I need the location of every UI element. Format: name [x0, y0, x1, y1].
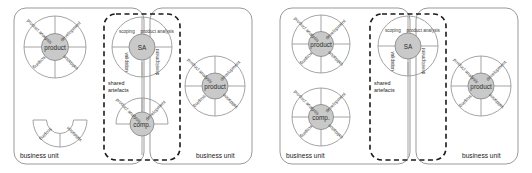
segment-label-scoping: scoping	[299, 51, 314, 66]
segment-label-validation: validation	[124, 52, 129, 72]
segment-label-scoping: scoping	[385, 28, 401, 33]
wheel-left-partial-bottom: scoping validation	[33, 120, 87, 147]
hub-label: comp.	[133, 121, 151, 129]
segment-label-validation: validation	[327, 50, 345, 68]
segment-label-development: development	[485, 59, 508, 82]
wheel-left-comp: comp. product analysis development	[115, 97, 168, 136]
shared-artefacts-label-line2: artefacts	[374, 87, 395, 93]
segment-label-scoping: scoping	[38, 127, 53, 142]
segment-label-product-analysis: product analysis	[141, 29, 175, 34]
wheel-left-product-right: product product analysis development sco…	[185, 56, 245, 116]
segment-label-validation: validation	[487, 92, 505, 110]
diagram-right: product product analysis development sco…	[280, 8, 518, 164]
shared-artefacts-label-line1: shared	[108, 80, 124, 86]
segment-label-development: development	[324, 91, 347, 114]
segment-label-product-analysis: product analysis	[26, 18, 54, 46]
segment-label-development: development	[421, 47, 426, 74]
business-unit-label-left-2: business unit	[196, 152, 235, 159]
segment-label-development: development	[219, 59, 242, 82]
segment-label-validation: validation	[62, 54, 80, 72]
business-unit-label-right-1: business unit	[286, 152, 325, 159]
wheel-right-product-top: product product analysis development sco…	[292, 15, 350, 73]
business-unit-label-right-2: business unit	[462, 152, 501, 159]
segment-label-development: development	[155, 48, 160, 75]
segment-label-development: development	[324, 18, 347, 41]
diagram-canvas: product product analysis development sco…	[0, 0, 532, 173]
segment-label-validation: validation	[390, 51, 395, 71]
wheel-right-comp: comp. product analysis development scopi…	[292, 88, 350, 146]
segment-label-scoping: scoping	[119, 29, 135, 34]
segment-label-scoping: scoping	[458, 94, 473, 109]
hub-label: SA	[138, 44, 147, 51]
business-unit-label-left-1: business unit	[20, 152, 59, 159]
segment-label-product-analysis: product analysis	[407, 28, 441, 33]
figure-root: product product analysis development sco…	[0, 0, 532, 173]
segment-label-scoping: scoping	[32, 55, 47, 70]
segment-label-product-analysis: product analysis	[186, 57, 214, 85]
wheel-left-product-top: product product analysis development sco…	[24, 16, 86, 78]
segment-label-scoping: scoping	[299, 124, 314, 139]
segment-label-development: development	[59, 20, 82, 43]
segment-label-validation: validation	[221, 92, 239, 110]
diagram-left: product product analysis development sco…	[14, 8, 252, 164]
hub-label: product	[204, 83, 226, 91]
segment-label-scoping: scoping	[192, 94, 207, 109]
segment-label-development: development	[144, 99, 167, 122]
hub-label: SA	[404, 43, 413, 50]
shared-artefacts-label-line1: shared	[374, 80, 390, 86]
wheel-left-sa: SA scoping product analysis validation d…	[112, 17, 174, 77]
wheel-right-sa: SA scoping product analysis validation d…	[378, 16, 440, 76]
hub-label: product	[44, 44, 66, 52]
hub-label: product	[470, 83, 492, 91]
segment-label-product-analysis: product analysis	[293, 89, 321, 117]
wheel-right-product-right: product product analysis development sco…	[451, 56, 511, 116]
segment-label-product-analysis: product analysis	[452, 57, 480, 85]
segment-label-validation: validation	[327, 123, 345, 141]
hub-label: product	[310, 41, 332, 49]
hub-label: comp.	[312, 114, 330, 122]
shared-artefacts-label-line2: artefacts	[108, 87, 129, 93]
segment-label-product-analysis: product analysis	[293, 16, 321, 44]
segment-label-validation: validation	[65, 125, 83, 143]
